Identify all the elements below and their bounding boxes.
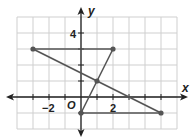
point-marker xyxy=(78,110,83,115)
y-axis-label: y xyxy=(87,4,96,18)
point-marker xyxy=(30,46,35,51)
tick-label-x-neg2: −2 xyxy=(42,102,55,114)
point-marker xyxy=(158,110,163,115)
tick-label-x-2: 2 xyxy=(110,102,116,114)
coordinate-plane: y x O −2 2 4 xyxy=(0,0,193,140)
point-marker xyxy=(110,46,115,51)
tick-label-y-4: 4 xyxy=(70,28,77,40)
origin-label: O xyxy=(67,99,76,111)
x-axis-label: x xyxy=(181,81,190,95)
point-marker xyxy=(94,78,99,83)
